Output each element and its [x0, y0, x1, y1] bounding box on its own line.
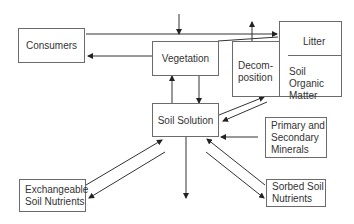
- exchangeable-label-line2: Soil Nutrients: [25, 196, 88, 208]
- decomposition-label-line1: Decom-: [238, 60, 273, 72]
- litter-label: Litter: [303, 36, 325, 48]
- soil-solution-label: Soil Solution: [158, 115, 214, 126]
- minerals-label-line2: Secondary: [271, 132, 325, 144]
- primary-secondary-minerals-box: Primary and Secondary Minerals: [265, 117, 327, 158]
- minerals-label-line1: Primary and: [271, 120, 325, 132]
- exchangeable-label-line1: Exchangeable: [25, 184, 88, 196]
- litter-som-divider: [288, 55, 341, 56]
- soil-organic-matter-label-line2: Matter: [289, 90, 341, 102]
- sorbed-label-line2: Nutrients: [272, 193, 324, 205]
- consumers-label: Consumers: [26, 40, 77, 51]
- minerals-label-line3: Minerals: [271, 144, 325, 156]
- soil-organic-matter-label-line1: Soil Organic: [289, 66, 341, 90]
- vegetation-box: Vegetation: [152, 41, 219, 76]
- sorbed-label-line1: Sorbed Soil: [272, 181, 324, 193]
- nutrient-cycle-diagram: Consumers Vegetation Decom- position Lit…: [0, 0, 354, 224]
- decomposition-label-line2: position: [238, 72, 273, 84]
- exchangeable-soil-nutrients-box: Exchangeable Soil Nutrients: [19, 179, 86, 212]
- soil-solution-box: Soil Solution: [152, 103, 219, 137]
- vegetation-label: Vegetation: [162, 53, 209, 64]
- sorbed-soil-nutrients-box: Sorbed Soil Nutrients: [266, 179, 326, 207]
- litter-soil-organic-matter-box: Litter Soil Organic Matter: [279, 21, 342, 97]
- consumers-box: Consumers: [18, 28, 85, 63]
